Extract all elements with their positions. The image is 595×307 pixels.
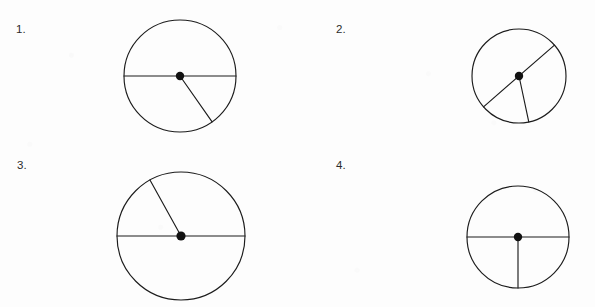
oblique-diameter-2 [484,45,555,107]
upper-left-radius-3 [150,180,181,236]
problem-number-2: 2. [336,24,346,36]
circle-figure-3 [117,172,245,300]
problem-number-1: 1. [16,24,26,36]
center-point-3 [176,231,185,240]
circle-outline-1 [124,20,236,132]
circle-figure-4 [467,186,569,288]
lower-radius-2 [519,76,529,122]
worksheet-page: 1. 2. 3. 4. [0,0,595,307]
problem-number-3: 3. [17,160,27,172]
circle-figures [0,0,595,307]
circle-outline-3 [117,172,245,300]
circle-figure-2 [472,29,566,123]
problem-number-4: 4. [336,160,346,172]
circle-outline-4 [467,186,569,288]
center-point-4 [514,233,522,241]
paper-texture-overlay [0,0,595,307]
lower-right-radius-1 [180,76,212,122]
circle-outline-2 [472,29,566,123]
center-point-1 [176,72,184,80]
circle-figure-1 [124,20,236,132]
center-point-2 [515,72,523,80]
